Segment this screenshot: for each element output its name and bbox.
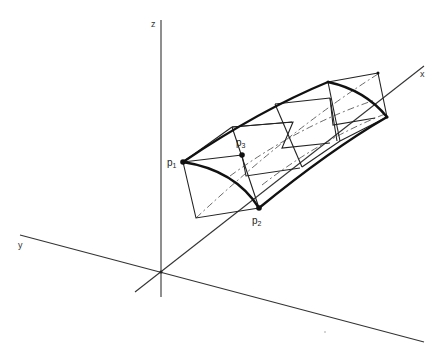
point-p2 (256, 205, 262, 211)
surface-patch-diagram: z x y (0, 0, 445, 358)
label-p2: p2 (252, 215, 262, 227)
net-line (328, 73, 378, 82)
corner-point (377, 72, 380, 75)
x-axis-label: x (420, 69, 425, 79)
control-points (180, 72, 388, 333)
speck (324, 331, 325, 332)
corner-point (327, 81, 330, 84)
point-p1 (180, 159, 186, 165)
dashed-curve-3 (262, 114, 385, 185)
net-line (242, 155, 300, 176)
y-axis (20, 235, 424, 342)
left-edge (183, 162, 259, 208)
net-line (232, 122, 330, 148)
patch-boundary (183, 82, 387, 208)
origin-point (159, 270, 162, 273)
net-line (275, 104, 302, 167)
net-line (183, 162, 259, 218)
dashed-guides (196, 74, 385, 218)
x-axis (135, 66, 424, 292)
z-axis-label: z (151, 19, 156, 29)
bottom-edge (259, 117, 387, 208)
label-p3: p3 (236, 137, 246, 149)
dashed-curve-1 (196, 74, 378, 218)
label-p1: p1 (167, 157, 177, 169)
right-edge (328, 82, 387, 117)
y-axis-label: y (18, 240, 23, 250)
top-edge (183, 82, 328, 162)
point-p3 (239, 152, 245, 158)
net-line (328, 82, 340, 141)
axes (20, 20, 424, 342)
control-net (183, 73, 387, 218)
corner-point (386, 116, 389, 119)
